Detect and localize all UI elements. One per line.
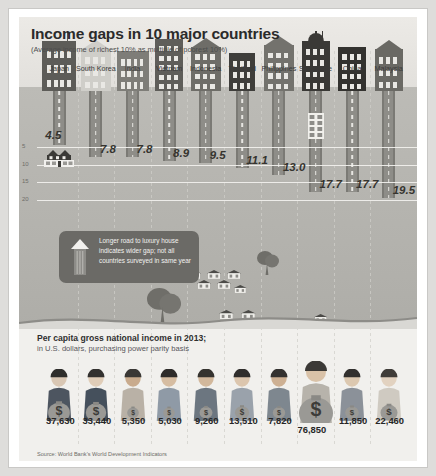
luxury-house-icon: [70, 238, 90, 276]
gap-value-malaysia: 19.5: [393, 184, 415, 196]
gap-value-vietnam: 8.9: [173, 147, 189, 159]
gni-value-singapore: 76,850: [298, 424, 327, 435]
gap-value-indonesia: 9.5: [210, 149, 226, 161]
gni-value-malaysia: 22,460: [373, 415, 407, 426]
gridline-10: [37, 165, 417, 166]
gap-value-south-korea: 7.8: [100, 143, 116, 155]
person-figure-malaysia: $: [372, 369, 406, 421]
country-label-malaysia: Malaysia: [359, 64, 417, 73]
building-singapore: [302, 31, 330, 91]
callout-text: Longer road to luxury house indicates wi…: [99, 236, 195, 266]
gni-value-japan: 37,630: [43, 415, 77, 426]
infographic-frame: Income gaps in 10 major countries (Avera…: [8, 8, 428, 468]
person-figure-philippines: $: [262, 369, 296, 421]
person-figure-singapore: $: [294, 361, 338, 423]
source-note: Source: World Bank's World Development I…: [37, 451, 167, 457]
page-title: Income gaps in 10 major countries: [31, 25, 279, 43]
gni-value-philippines: 7,820: [263, 415, 297, 426]
small-house-icon: [197, 275, 211, 284]
gap-value-india: 7.8: [137, 143, 153, 155]
callout-box: Longer road to luxury house indicates wi…: [59, 231, 199, 283]
person-figure-japan: $: [42, 369, 76, 421]
person-figure-india: $: [116, 369, 150, 421]
axis-tick-5: 5: [22, 143, 25, 149]
small-house-icon: [227, 265, 241, 274]
gni-value-china: 11,850: [336, 415, 370, 426]
wavy-divider: [19, 309, 417, 329]
header-block: Income gaps in 10 major countries (Avera…: [31, 25, 279, 54]
road-china: [346, 91, 359, 192]
gni-value-vietnam: 5,030: [153, 415, 187, 426]
small-house-icon: [207, 265, 221, 274]
mid-road-block-singapore: [308, 113, 324, 139]
person-figure-thailand: $: [225, 369, 259, 421]
column-separator: [261, 51, 262, 327]
gap-value-china: 17.7: [356, 178, 378, 190]
page-subtitle: (Average income of richest 10% as multip…: [31, 45, 279, 54]
road-singapore: [309, 91, 322, 192]
small-house-icon: [234, 279, 247, 287]
person-figure-vietnam: $: [152, 369, 186, 421]
svg-text:$: $: [310, 398, 321, 420]
axis-tick-20: 20: [22, 196, 29, 202]
gni-value-south-korea: 33,440: [80, 415, 114, 426]
gap-value-japan: 4.5: [45, 129, 61, 141]
tree-icon: [257, 249, 279, 275]
luxury-house-japan: [43, 149, 75, 169]
small-house-icon: [217, 275, 231, 284]
gap-value-philippines: 13.0: [283, 161, 305, 173]
gridline-5: [37, 147, 417, 148]
gni-value-thailand: 13,510: [226, 415, 260, 426]
gni-value-india: 5,350: [117, 415, 151, 426]
person-figure-south-korea: $: [79, 369, 113, 421]
gni-value-indonesia: 9,260: [190, 415, 224, 426]
person-figure-china: $: [335, 369, 369, 421]
axis-tick-15: 15: [22, 178, 29, 184]
person-figure-indonesia: $: [189, 369, 223, 421]
income-gap-chart: Income gaps in 10 major countries (Avera…: [19, 17, 417, 329]
gni-subtitle: in U.S. dollars, purchasing power parity…: [37, 344, 189, 353]
column-separator: [187, 51, 188, 327]
gni-section: Per capita gross national income in 2013…: [19, 327, 417, 461]
gni-title: Per capita gross national income in 2013…: [37, 333, 206, 343]
column-separator: [114, 51, 115, 327]
gap-value-singapore: 17.7: [320, 178, 342, 190]
column-separator: [297, 51, 298, 327]
gridline-20: [37, 200, 417, 201]
infographic-page: Income gaps in 10 major countries (Avera…: [0, 0, 436, 476]
column-separator: [78, 51, 79, 327]
gap-value-thailand: 11.1: [246, 154, 268, 166]
axis-tick-10: 10: [22, 161, 29, 167]
